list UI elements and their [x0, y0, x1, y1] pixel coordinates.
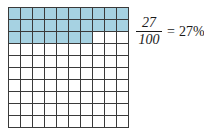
- grid-cell-empty: [45, 68, 57, 80]
- grid-cell-empty: [117, 92, 129, 104]
- grid-cell-empty: [81, 80, 93, 92]
- grid-cell-empty: [93, 80, 105, 92]
- grid-cell-shaded: [33, 20, 45, 32]
- grid-cell-empty: [57, 68, 69, 80]
- grid-cell-shaded: [9, 8, 21, 20]
- grid-cell-empty: [69, 116, 81, 128]
- grid-cell-shaded: [69, 8, 81, 20]
- grid-cell-empty: [93, 56, 105, 68]
- grid-cell-empty: [33, 68, 45, 80]
- grid-cell-empty: [69, 68, 81, 80]
- grid-cell-empty: [21, 56, 33, 68]
- grid-cell-shaded: [93, 20, 105, 32]
- fraction-denominator: 100: [137, 32, 162, 47]
- grid-cell-empty: [81, 68, 93, 80]
- grid-row: [9, 56, 129, 68]
- grid-cell-empty: [57, 92, 69, 104]
- grid-cell-shaded: [105, 8, 117, 20]
- grid-cell-shaded: [117, 8, 129, 20]
- grid-cell-empty: [57, 80, 69, 92]
- grid-row: [9, 32, 129, 44]
- grid-cell-empty: [45, 104, 57, 116]
- grid-cell-empty: [33, 116, 45, 128]
- grid-cell-empty: [69, 44, 81, 56]
- grid-cell-empty: [93, 68, 105, 80]
- grid-cell-empty: [9, 44, 21, 56]
- grid-cell-empty: [33, 80, 45, 92]
- grid-cell-empty: [93, 44, 105, 56]
- grid-row: [9, 68, 129, 80]
- grid-cell-empty: [69, 80, 81, 92]
- grid-cell-empty: [45, 116, 57, 128]
- grid-cell-empty: [105, 68, 117, 80]
- grid-row: [9, 44, 129, 56]
- grid-cell-empty: [9, 68, 21, 80]
- fraction-numerator: 27: [140, 16, 158, 31]
- grid-row: [9, 20, 129, 32]
- grid-cell-empty: [117, 80, 129, 92]
- grid-cell-shaded: [69, 32, 81, 44]
- grid-cell-shaded: [117, 20, 129, 32]
- grid-cell-empty: [21, 80, 33, 92]
- grid-cell-empty: [117, 56, 129, 68]
- fraction-27-over-100: 27 100: [136, 16, 162, 47]
- grid-cell-empty: [81, 92, 93, 104]
- grid-cell-empty: [117, 104, 129, 116]
- grid-cell-empty: [9, 116, 21, 128]
- grid-cell-empty: [105, 104, 117, 116]
- grid-cell-empty: [81, 104, 93, 116]
- grid-cell-empty: [57, 104, 69, 116]
- grid-cell-shaded: [81, 8, 93, 20]
- grid-cell-shaded: [33, 32, 45, 44]
- grid-cell-empty: [45, 56, 57, 68]
- grid-cell-shaded: [45, 20, 57, 32]
- grid-cell-shaded: [21, 8, 33, 20]
- grid-cell-empty: [81, 56, 93, 68]
- grid-cell-empty: [45, 92, 57, 104]
- grid-cell-shaded: [81, 20, 93, 32]
- hundredths-grid-table: [8, 7, 129, 128]
- grid-cell-empty: [45, 80, 57, 92]
- grid-cell-empty: [9, 92, 21, 104]
- grid-cell-empty: [57, 116, 69, 128]
- percent-model-figure: 27 100 = 27%: [0, 0, 204, 135]
- grid-cell-empty: [117, 44, 129, 56]
- grid-cell-empty: [33, 44, 45, 56]
- grid-cell-empty: [105, 44, 117, 56]
- grid-cell-empty: [33, 92, 45, 104]
- grid-cell-shaded: [45, 32, 57, 44]
- grid-cell-empty: [93, 32, 105, 44]
- grid-cell-empty: [21, 116, 33, 128]
- grid-cell-shaded: [57, 8, 69, 20]
- grid-cell-shaded: [57, 20, 69, 32]
- grid-cell-shaded: [69, 20, 81, 32]
- grid-cell-empty: [45, 44, 57, 56]
- grid-cell-empty: [57, 56, 69, 68]
- hundredths-grid: [8, 7, 129, 128]
- grid-cell-empty: [105, 92, 117, 104]
- grid-cell-empty: [117, 68, 129, 80]
- grid-cell-empty: [105, 116, 117, 128]
- grid-cell-shaded: [57, 32, 69, 44]
- grid-row: [9, 80, 129, 92]
- grid-cell-shaded: [45, 8, 57, 20]
- grid-cell-shaded: [21, 32, 33, 44]
- grid-row: [9, 116, 129, 128]
- grid-cell-empty: [105, 32, 117, 44]
- grid-cell-empty: [57, 44, 69, 56]
- grid-cell-empty: [93, 116, 105, 128]
- fraction-percent-expression: 27 100 = 27%: [136, 16, 204, 47]
- grid-cell-empty: [21, 104, 33, 116]
- grid-row: [9, 104, 129, 116]
- equals-sign: =: [167, 25, 175, 39]
- grid-cell-empty: [21, 68, 33, 80]
- grid-cell-empty: [69, 104, 81, 116]
- grid-cell-shaded: [33, 8, 45, 20]
- grid-cell-empty: [9, 104, 21, 116]
- grid-row: [9, 92, 129, 104]
- grid-cell-shaded: [9, 32, 21, 44]
- grid-cell-empty: [9, 80, 21, 92]
- grid-cell-empty: [117, 32, 129, 44]
- grid-cell-empty: [69, 56, 81, 68]
- grid-cell-shaded: [9, 20, 21, 32]
